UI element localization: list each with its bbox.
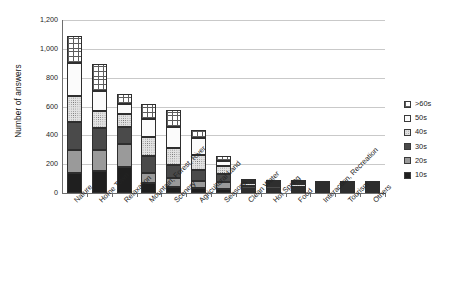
x-axis-label: Nature <box>72 182 94 204</box>
x-axis-label: Tourism <box>346 180 371 205</box>
legend-item[interactable]: 40s <box>404 125 458 139</box>
x-axis-label: Scenery <box>172 179 198 205</box>
legend-swatch <box>404 143 411 150</box>
legend-label: 20s <box>415 157 427 165</box>
legend-swatch <box>404 115 411 122</box>
legend: >60s50s40s30s20s10s <box>404 97 458 182</box>
x-axis-labels: NatureHome TownRelaxationMountain, Fores… <box>0 0 458 283</box>
stacked-bar-chart: Number of answers 02004006008001,0001,20… <box>0 0 458 283</box>
legend-label: 40s <box>415 128 427 136</box>
legend-item[interactable]: >60s <box>404 97 458 111</box>
legend-swatch <box>404 172 411 179</box>
legend-swatch <box>404 129 411 136</box>
legend-label: 50s <box>415 114 427 122</box>
x-axis-label: Others <box>371 182 393 204</box>
legend-label: >60s <box>415 100 431 108</box>
x-axis-label: Agricultural Land <box>197 159 243 205</box>
legend-item[interactable]: 10s <box>404 168 458 182</box>
legend-label: 30s <box>415 143 427 151</box>
legend-swatch <box>404 157 411 164</box>
legend-swatch <box>404 101 411 108</box>
legend-item[interactable]: 20s <box>404 154 458 168</box>
legend-label: 10s <box>415 171 427 179</box>
legend-item[interactable]: 50s <box>404 111 458 125</box>
x-axis-label: Food <box>296 186 314 204</box>
legend-item[interactable]: 30s <box>404 140 458 154</box>
